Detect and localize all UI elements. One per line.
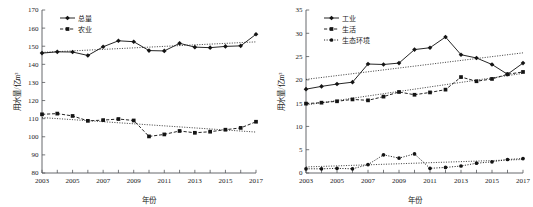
x-axis-title: 年份 bbox=[142, 195, 157, 205]
y-tick-label: 130 bbox=[28, 79, 39, 87]
data-point bbox=[66, 27, 70, 31]
x-tick-label: 2007 bbox=[361, 177, 376, 185]
y-axis-title: 用水量/亿m³ bbox=[12, 72, 22, 111]
y-tick-label: 10 bbox=[296, 123, 304, 131]
figure-container: 8090100110120130140150160170200320052007… bbox=[0, 0, 533, 207]
legend-label: 生活 bbox=[342, 25, 356, 34]
data-point bbox=[490, 62, 495, 67]
data-point bbox=[208, 130, 212, 134]
data-point bbox=[224, 128, 228, 132]
data-point bbox=[521, 70, 525, 74]
data-point bbox=[329, 16, 334, 21]
data-point bbox=[304, 102, 308, 106]
data-point bbox=[366, 163, 370, 167]
data-point bbox=[428, 91, 432, 95]
data-point bbox=[162, 133, 166, 137]
right-line-chart: 0510152025303520032005200720092011201320… bbox=[266, 0, 533, 207]
y-tick-label: 120 bbox=[28, 97, 39, 105]
y-tick-label: 15 bbox=[296, 100, 304, 108]
data-point bbox=[319, 84, 324, 89]
data-point bbox=[397, 156, 401, 160]
legend-label: 生态环境 bbox=[342, 36, 370, 45]
data-point bbox=[475, 79, 479, 83]
y-tick-label: 100 bbox=[28, 133, 39, 141]
data-point bbox=[132, 119, 136, 123]
left-line-chart: 8090100110120130140150160170200320052007… bbox=[0, 0, 266, 207]
y-axis-title: 用水量/亿m³ bbox=[276, 72, 286, 111]
y-tick-label: 90 bbox=[32, 151, 40, 159]
y-tick-label: 30 bbox=[296, 30, 304, 38]
data-point bbox=[474, 56, 479, 61]
data-point bbox=[330, 27, 334, 31]
y-tick-label: 140 bbox=[28, 61, 39, 69]
x-tick-label: 2013 bbox=[188, 177, 203, 185]
data-point bbox=[320, 167, 324, 171]
trendline-工业 bbox=[306, 53, 523, 80]
data-point bbox=[506, 158, 510, 162]
data-point bbox=[65, 16, 70, 21]
data-point bbox=[101, 44, 106, 49]
series-line-工业 bbox=[306, 37, 523, 89]
data-point bbox=[381, 62, 386, 67]
data-point bbox=[239, 126, 243, 130]
data-point bbox=[459, 164, 463, 168]
x-tick-label: 2017 bbox=[516, 177, 531, 185]
x-tick-label: 2003 bbox=[299, 177, 314, 185]
data-point bbox=[413, 93, 417, 97]
data-point bbox=[444, 166, 448, 170]
data-point bbox=[162, 49, 167, 54]
data-point bbox=[55, 50, 60, 55]
data-point bbox=[366, 98, 370, 102]
data-point bbox=[193, 131, 197, 135]
data-point bbox=[351, 167, 355, 171]
series-line-生活 bbox=[306, 72, 523, 104]
x-tick-label: 2005 bbox=[330, 177, 345, 185]
data-point bbox=[116, 38, 121, 43]
x-tick-label: 2017 bbox=[249, 177, 264, 185]
x-tick-label: 2011 bbox=[423, 177, 437, 185]
data-point bbox=[40, 51, 45, 56]
y-tick-label: 25 bbox=[296, 53, 304, 61]
data-point bbox=[147, 135, 151, 139]
legend-label: 农业 bbox=[78, 25, 92, 34]
data-point bbox=[428, 166, 432, 170]
data-point bbox=[304, 167, 308, 171]
data-point bbox=[335, 166, 339, 170]
data-point bbox=[335, 82, 340, 87]
data-point bbox=[335, 99, 339, 103]
axis-lines bbox=[42, 10, 256, 173]
data-point bbox=[70, 50, 75, 55]
x-tick-label: 2005 bbox=[66, 177, 81, 185]
chart-legend: 总量农业 bbox=[60, 14, 92, 34]
x-axis-title: 年份 bbox=[408, 195, 423, 205]
y-tick-label: 170 bbox=[28, 6, 39, 14]
data-point bbox=[40, 112, 44, 116]
x-tick-label: 2015 bbox=[485, 177, 500, 185]
data-point bbox=[101, 118, 105, 122]
data-point bbox=[444, 88, 448, 92]
data-point bbox=[193, 45, 198, 50]
y-tick-label: 20 bbox=[296, 76, 304, 84]
data-point bbox=[86, 53, 91, 58]
data-point bbox=[71, 114, 75, 118]
data-point bbox=[521, 157, 525, 161]
y-tick-label: 35 bbox=[296, 6, 304, 14]
data-point bbox=[131, 39, 136, 44]
y-tick-label: 150 bbox=[28, 43, 39, 51]
data-point bbox=[177, 41, 182, 46]
x-tick-label: 2015 bbox=[218, 177, 233, 185]
data-point bbox=[86, 119, 90, 123]
data-point bbox=[117, 117, 121, 121]
y-tick-label: 110 bbox=[28, 115, 39, 123]
chart-panel-left: 8090100110120130140150160170200320052007… bbox=[0, 0, 266, 207]
data-point bbox=[397, 90, 401, 94]
axis-lines bbox=[306, 10, 523, 173]
x-tick-label: 2003 bbox=[35, 177, 50, 185]
trendline-生态环境 bbox=[306, 159, 523, 166]
y-tick-label: 160 bbox=[28, 25, 39, 33]
data-point bbox=[223, 44, 228, 49]
data-point bbox=[320, 101, 324, 105]
data-point bbox=[413, 152, 417, 156]
data-point bbox=[351, 98, 355, 102]
data-point bbox=[382, 95, 386, 99]
